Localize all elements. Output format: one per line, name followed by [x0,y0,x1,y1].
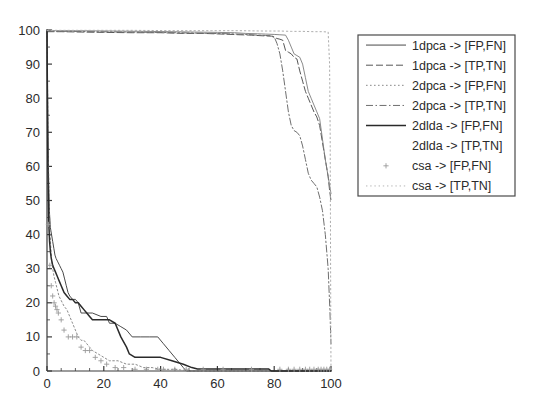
x-tick-label: 60 [210,376,224,391]
y-tick-label: 40 [26,227,40,242]
y-tick-label: 100 [18,23,40,38]
y-tick-label: 70 [26,125,40,140]
x-tick-label: 80 [267,376,281,391]
legend-label: 1dpca -> [TP,TN] [412,59,506,73]
legend-label: 2dpca -> [TP,TN] [412,99,506,113]
x-tick-label: 40 [153,376,167,391]
legend-label: 2dpca -> [FP,FN] [412,79,506,93]
legend-entry[interactable]: 2dlda -> [TP,TN] [412,139,502,153]
y-tick-label: 90 [26,57,40,72]
legend-label: 2dlda -> [TP,TN] [412,139,502,153]
y-tick-label: 10 [26,329,40,344]
y-tick-label: 60 [26,159,40,174]
legend-label: csa -> [FP,FN] [412,159,491,173]
y-tick-label: 50 [26,193,40,208]
legend-label: 2dlda -> [FP,FN] [412,119,502,133]
y-tick-label: 20 [26,295,40,310]
y-tick-label: 80 [26,91,40,106]
y-tick-label: 30 [26,261,40,276]
chart-legend[interactable]: 1dpca -> [FP,FN]1dpca -> [TP,TN]2dpca ->… [358,35,515,196]
y-tick-label: 0 [33,364,40,379]
x-tick-label: 0 [43,376,50,391]
x-tick-label: 100 [320,376,342,391]
legend-label: csa -> [TP,TN] [412,179,491,193]
x-tick-label: 20 [97,376,111,391]
chart-figure: 0102030405060708090100020406080100 1dpca… [0,0,540,411]
chart-canvas: 0102030405060708090100020406080100 1dpca… [0,0,540,411]
legend-label: 1dpca -> [FP,FN] [412,39,506,53]
